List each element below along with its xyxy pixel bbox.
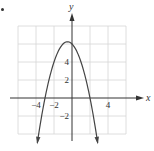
x-axis-arrow-icon xyxy=(136,96,144,101)
x-tick-label: 4 xyxy=(106,100,111,110)
parabola-chart: xy −4−2424−2 xyxy=(0,0,154,151)
y-axis-arrow-icon xyxy=(70,13,75,21)
y-axis-label: y xyxy=(68,1,74,12)
x-axis-label: x xyxy=(145,92,151,103)
x-tick-label: −2 xyxy=(49,100,59,110)
y-tick-label: 2 xyxy=(65,75,70,85)
x-tick-label: −4 xyxy=(31,100,41,110)
curve-arrow-icon xyxy=(95,136,99,144)
y-tick-label: 4 xyxy=(65,57,70,67)
curve-arrow-icon xyxy=(36,136,40,144)
axes: xy xyxy=(10,1,151,141)
tick-labels: −4−2424−2 xyxy=(31,57,111,121)
y-tick-label: −2 xyxy=(59,111,69,121)
